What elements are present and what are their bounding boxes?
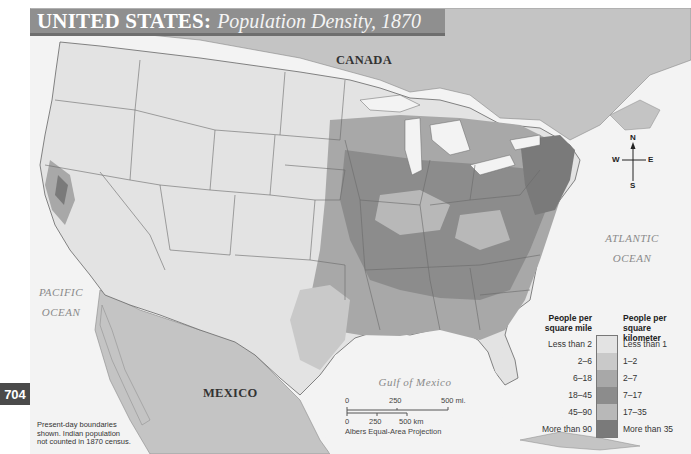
legend-heading-mile-1: People per: [534, 313, 592, 323]
legend-row: 45–90 17–35: [510, 403, 691, 421]
legend-km-value: 17–35: [623, 407, 647, 417]
scale-km-250: 250: [369, 417, 382, 426]
label-gulf-of-mexico: Gulf of Mexico: [365, 372, 465, 392]
legend-heading-mile-2: square mile: [534, 323, 592, 333]
scale-mi-500: 500 mi.: [441, 396, 466, 405]
legend-swatch: [596, 370, 618, 387]
atlantic-line-2: OCEAN: [592, 248, 672, 268]
legend-swatch: [596, 335, 618, 353]
legend-km-value: More than 35: [623, 424, 673, 434]
legend-mile-value: 2–6: [510, 356, 592, 366]
legend-row: Less than 2 Less than 1: [510, 335, 691, 353]
page-number: 704: [0, 383, 30, 405]
legend-swatch: [596, 404, 618, 421]
legend-row: 18–45 7–17: [510, 386, 691, 404]
legend-km-value: Less than 1: [623, 339, 667, 349]
legend-km-value: 7–17: [623, 390, 642, 400]
legend-heading-mile: People per square mile: [534, 313, 592, 333]
legend-swatch: [596, 353, 618, 370]
compass-rose: N W E S: [612, 133, 656, 193]
legend: People per square mile People per square…: [510, 313, 691, 433]
label-canada: CANADA: [336, 53, 392, 68]
legend-mile-value: 6–18: [510, 373, 592, 383]
legend-row: More than 90 More than 35: [510, 420, 691, 438]
scale-bar: 0 250 500 mi. 0 250 500 km Albers Equal-…: [345, 396, 475, 441]
legend-swatch: [596, 387, 618, 404]
pacific-line-1: PACIFIC: [36, 282, 86, 302]
label-atlantic-ocean: ATLANTIC OCEAN: [592, 228, 672, 268]
legend-mile-value: 45–90: [510, 407, 592, 417]
legend-heading-km-1: People per: [623, 313, 691, 323]
map-title-bar: UNITED STATES: Population Density, 1870: [30, 9, 445, 36]
map-subtitle: Population Density, 1870: [217, 10, 421, 33]
compass-arrow-icon: [612, 133, 656, 193]
scale-km-500: 500 km: [399, 417, 424, 426]
legend-swatch: [596, 420, 618, 438]
legend-mile-value: More than 90: [510, 424, 592, 434]
legend-row: 2–6 1–2: [510, 352, 691, 370]
pacific-line-2: OCEAN: [36, 302, 86, 322]
legend-mile-value: Less than 2: [510, 339, 592, 349]
legend-mile-value: 18–45: [510, 390, 592, 400]
scale-mi-250: 250: [389, 396, 402, 405]
legend-km-value: 1–2: [623, 356, 637, 366]
label-pacific-ocean: PACIFIC OCEAN: [36, 282, 86, 322]
label-mexico: MEXICO: [203, 386, 258, 401]
map-title: UNITED STATES:: [37, 9, 211, 34]
legend-km-value: 2–7: [623, 373, 637, 383]
legend-row: 6–18 2–7: [510, 369, 691, 387]
scale-mi-0: 0: [345, 396, 349, 405]
scale-km-0: 0: [345, 417, 349, 426]
note-line-3: not counted in 1870 census.: [37, 438, 131, 447]
atlantic-line-1: ATLANTIC: [592, 228, 672, 248]
map-note: Present-day boundaries shown. Indian pop…: [37, 421, 131, 447]
projection-label: Albers Equal-Area Projection: [345, 427, 441, 436]
